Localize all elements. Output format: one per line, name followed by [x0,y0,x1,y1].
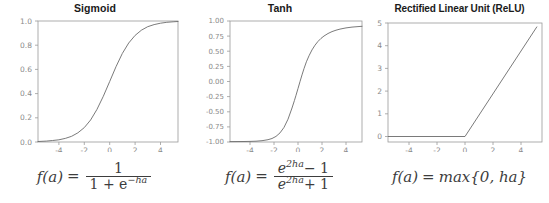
activation-functions-figure: Sigmoid [0,0,549,203]
panel-sigmoid: Sigmoid [0,0,190,203]
panel-tanh: Tanh [190,0,370,203]
svg-text:5: 5 [377,19,382,28]
formula-num-exponent-tanh: 2ha [286,158,304,169]
svg-text:0.00: 0.00 [208,78,224,86]
plot-relu: 0 1 2 3 4 5 -4 -2 0 2 4 [370,16,549,152]
x-ticks [59,142,161,145]
plot-tanh: -1.00 -0.75 -0.50 -0.25 0.00 0.25 0.50 0… [190,16,370,152]
formula-relu: f(a)=max{0, ha} [370,152,549,202]
relu-svg: 0 1 2 3 4 5 -4 -2 0 2 4 [370,16,549,152]
x-ticks [250,142,346,145]
formula-rhs-relu: max{0, ha} [439,168,527,186]
y-ticks [385,23,388,137]
svg-text:0.25: 0.25 [208,63,224,71]
formula-lhs-relu: f(a) [392,168,418,186]
formula-den-exponent-tanh: 2ha [286,174,304,185]
axis-frame [230,21,362,142]
y-tick-labels: 0.0 0.2 0.4 0.6 0.8 1.0 [20,17,32,147]
svg-text:-0.75: -0.75 [206,123,224,131]
svg-text:0.4: 0.4 [20,89,32,98]
svg-text:0: 0 [377,132,382,141]
svg-text:1: 1 [377,109,382,118]
tanh-svg: -1.00 -0.75 -0.50 -0.25 0.00 0.25 0.50 0… [190,16,370,152]
svg-text:4: 4 [377,41,382,50]
formula-eq-tanh: = [251,167,272,185]
axis-frame [38,21,178,142]
formula-numerator-sigmoid: 1 [110,161,127,176]
y-ticks [227,21,230,142]
svg-text:1.00: 1.00 [208,17,224,25]
y-ticks [35,21,38,142]
formula-lhs-sigmoid: f(a) [37,167,63,185]
panel-relu: Rectified Linear Unit (ReLU) [370,0,549,203]
formula-lhs-tanh: f(a) [225,167,251,185]
svg-text:1.0: 1.0 [20,17,32,26]
plot-sigmoid: 0.0 0.2 0.4 0.6 0.8 1.0 -4 -2 0 2 4 [0,16,190,152]
axis-frame [388,23,542,142]
svg-text:0.8: 0.8 [20,41,32,50]
formula-den-tail-tanh: + 1 [304,176,329,192]
formula-num-tail-tanh: − 1 [304,160,329,176]
sigmoid-svg: 0.0 0.2 0.4 0.6 0.8 1.0 -4 -2 0 2 4 [0,16,190,152]
formula-denominator-sigmoid: 1 + e [90,176,128,192]
svg-text:2: 2 [377,87,382,96]
svg-text:0.50: 0.50 [208,48,224,56]
svg-text:0.6: 0.6 [20,65,32,74]
panel-title-sigmoid: Sigmoid [0,2,190,15]
svg-text:0.2: 0.2 [20,113,32,122]
y-tick-labels: -1.00 -0.75 -0.50 -0.25 0.00 0.25 0.50 0… [206,17,224,146]
panel-title-relu: Rectified Linear Unit (ReLU) [370,2,549,15]
svg-text:3: 3 [377,64,382,73]
sigmoid-curve [38,22,178,142]
formula-tanh: f(a)=e2ha− 1e2ha+ 1 [190,152,370,202]
svg-text:-0.50: -0.50 [206,108,224,116]
formula-den-base-tanh: e [278,176,286,192]
tanh-curve [230,26,362,141]
formula-fraction-sigmoid: 11 + e−ha [86,161,152,192]
relu-curve [388,27,537,137]
formula-fraction-tanh: e2ha− 1e2ha+ 1 [274,161,333,192]
formula-eq-sigmoid: = [63,167,84,185]
svg-text:0.75: 0.75 [208,33,224,41]
formula-denominator-exponent-sigmoid: −ha [127,174,147,185]
x-ticks [409,142,521,145]
panel-title-tanh: Tanh [190,2,370,15]
svg-text:-1.00: -1.00 [206,138,224,146]
svg-text:-0.25: -0.25 [206,93,224,101]
formula-sigmoid: f(a)=11 + e−ha [0,152,190,202]
y-tick-labels: 0 1 2 3 4 5 [377,19,382,142]
formula-eq-relu: = [418,168,439,186]
svg-text:0.0: 0.0 [20,138,32,147]
formula-num-base-tanh: e [278,160,286,176]
